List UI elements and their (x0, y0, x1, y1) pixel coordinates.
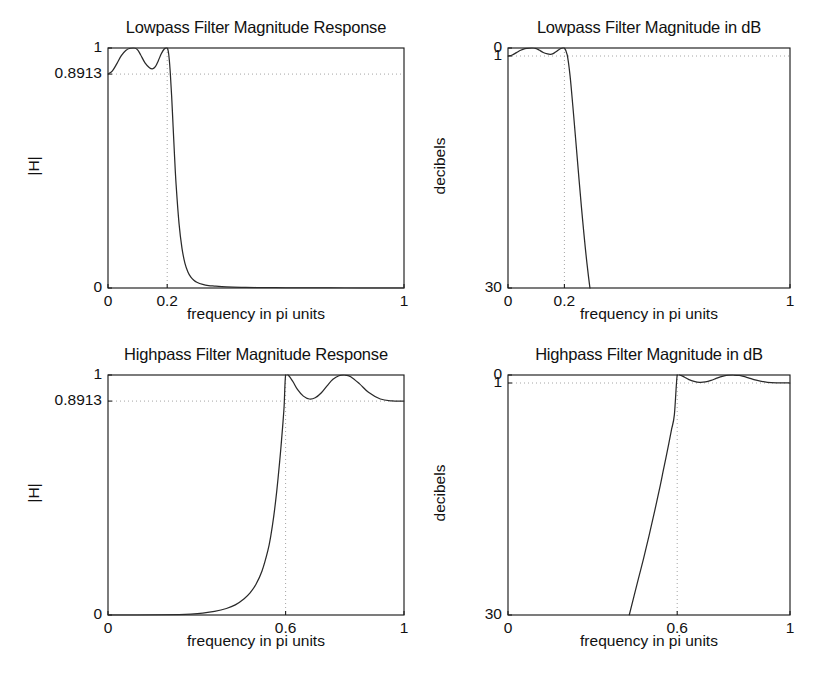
filter-response-figure: Lowpass Filter Magnitude Responsefrequen… (0, 0, 824, 684)
y-axis-label-highpass_db: decibels (431, 453, 449, 533)
y-tick-label-highpass_db-1: 1 (493, 373, 502, 391)
plot-area-highpass_db (0, 0, 824, 684)
axis-box-highpass_db (508, 375, 790, 615)
x-tick-label-highpass_db-1: 0.6 (647, 619, 707, 637)
chart-panel-highpass_db: Highpass Filter Magnitude in dBfrequency… (0, 0, 824, 684)
x-tick-label-highpass_db-0: 0 (478, 619, 538, 637)
curve-highpass_db-0 (629, 372, 790, 615)
curve-group-highpass_db (629, 372, 790, 615)
x-tick-label-highpass_db-2: 1 (760, 619, 820, 637)
chart-title-highpass_db: Highpass Filter Magnitude in dB (448, 345, 824, 364)
